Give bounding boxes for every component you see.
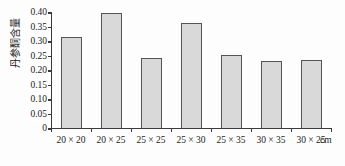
- y-axis-tick-mark: [48, 99, 52, 100]
- x-axis-tick-mark: [251, 128, 252, 132]
- x-axis-category-label: 25 × 30: [171, 135, 211, 146]
- bar: [221, 55, 242, 128]
- plot-area: [51, 13, 331, 129]
- x-axis-line: [51, 128, 331, 129]
- y-axis-tick-mark: [48, 12, 52, 13]
- x-axis-tick-mark: [131, 128, 132, 132]
- x-axis-tick-mark: [331, 128, 332, 132]
- y-axis-tick-label: 0: [20, 124, 47, 134]
- y-axis-tick-label: 0.30: [20, 37, 47, 47]
- y-axis-tick-label: 0.20: [20, 66, 47, 76]
- y-axis-tick-label: 0.15: [20, 81, 47, 91]
- x-axis-category-label: 30 × 35: [251, 135, 291, 146]
- y-axis-tick-mark: [48, 41, 52, 42]
- x-axis-category-label: 20 × 20: [51, 135, 91, 146]
- bar: [261, 61, 282, 128]
- y-axis-tick-label: 0.05: [20, 110, 47, 120]
- x-axis-category-label: 25 × 25: [131, 135, 171, 146]
- y-axis-tick-mark: [48, 85, 52, 86]
- y-axis-tick-label: 0.40: [20, 8, 47, 18]
- bar: [141, 58, 162, 128]
- y-axis-tick-mark: [48, 114, 52, 115]
- bar-chart-figure: 丹参酮含量 00.050.100.150.200.250.300.350.40 …: [0, 0, 345, 166]
- y-axis-tick-label: 0.10: [20, 95, 47, 105]
- x-axis-tick-mark: [51, 128, 52, 132]
- bar: [301, 60, 322, 128]
- y-axis-tick-label: 0.35: [20, 23, 47, 33]
- x-axis-category-label: 25 × 35: [211, 135, 251, 146]
- y-axis-tick-mark: [48, 70, 52, 71]
- bar: [61, 37, 82, 128]
- bar: [101, 13, 122, 128]
- x-axis-unit-label: cm: [320, 135, 332, 146]
- y-axis-tick-mark: [48, 27, 52, 28]
- y-axis-tick-labels: 00.050.100.150.200.250.300.350.40: [18, 0, 47, 166]
- y-axis-tick-mark: [48, 56, 52, 57]
- x-axis-tick-mark: [291, 128, 292, 132]
- y-axis-tick-label: 0.25: [20, 52, 47, 62]
- x-axis-tick-mark: [211, 128, 212, 132]
- bar: [181, 23, 202, 128]
- x-axis-tick-mark: [91, 128, 92, 132]
- x-axis-tick-mark: [171, 128, 172, 132]
- x-axis-category-label: 20 × 25: [91, 135, 131, 146]
